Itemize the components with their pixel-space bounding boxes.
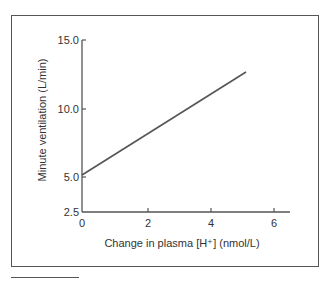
y-axis-label: Minute ventilation (L/min) (36, 59, 48, 182)
x-tick-label: 2 (145, 217, 151, 229)
x-axis-label: Change in plasma [H⁺] (nmol/L) (104, 237, 259, 249)
y-tick-label: 5.0 (64, 171, 79, 183)
y-tick-label: 2.5 (64, 206, 79, 218)
chart: 15.0 10.0 5.0 2.5 0 2 4 6 Change in plas… (0, 0, 334, 286)
data-line (82, 72, 246, 175)
x-tick-label: 0 (79, 217, 85, 229)
x-tick-label: 6 (271, 217, 277, 229)
x-ticks: 0 2 4 6 (79, 208, 277, 229)
y-tick-label: 15.0 (58, 34, 79, 46)
x-tick-label: 4 (208, 217, 214, 229)
y-tick-label: 10.0 (58, 103, 79, 115)
